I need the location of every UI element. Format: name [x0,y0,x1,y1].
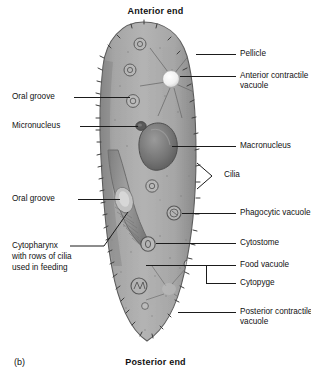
cilia-bracket [196,162,222,190]
phagocytic-vacuole [167,206,181,220]
anterior-end-title: Anterior end [0,6,311,16]
label-cytopharynx-line2: with rows of cilia [12,252,72,263]
label-anterior-contractile-vacuole-line1: Anterior contractile [240,71,308,82]
label-phagocytic-vacuole: Phagocytic vacuole [240,208,311,219]
label-food-vacuole: Food vacuole [240,260,289,271]
vacuole-anterior-1 [134,38,146,50]
leader-anterior-cv [180,76,236,77]
label-anterior-contractile-vacuole-line2: vacuole [240,81,268,92]
label-oral-groove-lower: Oral groove [12,194,55,205]
leader-pellicle [196,54,236,55]
leader-cytostome [156,243,236,244]
label-pellicle: Pellicle [240,49,266,60]
label-cytostome: Cytostome [240,238,279,249]
label-cytopharynx-line1: Cytopharynx [12,241,58,252]
food-vacuole [131,278,147,294]
cytopyge-pore [184,260,192,268]
leader-cytopyge-vertical [206,265,207,283]
panel-letter: (b) [14,357,25,367]
vacuole-mid [146,180,158,192]
leader-cytopyge [206,283,236,284]
leader-cytopharynx [70,210,130,250]
vacuole-posterior-small [142,303,149,310]
cytostome [141,237,155,251]
leader-oral-groove-upper [74,97,130,98]
label-macronucleus: Macronucleus [240,141,291,152]
leader-oral-groove-lower [78,199,120,200]
leader-food-vacuole [146,265,236,266]
label-posterior-contractile-vacuole-line1: Posterior contractile [240,307,311,318]
leader-micronucleus [80,126,138,127]
label-cilia: Cilia [224,170,240,181]
paramecium-figure: Anterior end Posterior end (b) Pellicle … [0,0,311,375]
vacuole-anterior-2 [124,64,136,76]
leader-phagocytic-vacuole [182,213,236,214]
leader-posterior-cv [178,312,236,313]
leader-macronucleus [172,146,236,147]
posterior-end-title: Posterior end [0,357,311,367]
label-posterior-contractile-vacuole-line2: vacuole [240,317,268,328]
label-micronucleus: Micronucleus [12,121,60,132]
label-cytopyge: Cytopyge [240,278,275,289]
label-oral-groove-upper: Oral groove [12,92,55,103]
label-cytopharynx-line3: used in feeding [12,263,68,274]
